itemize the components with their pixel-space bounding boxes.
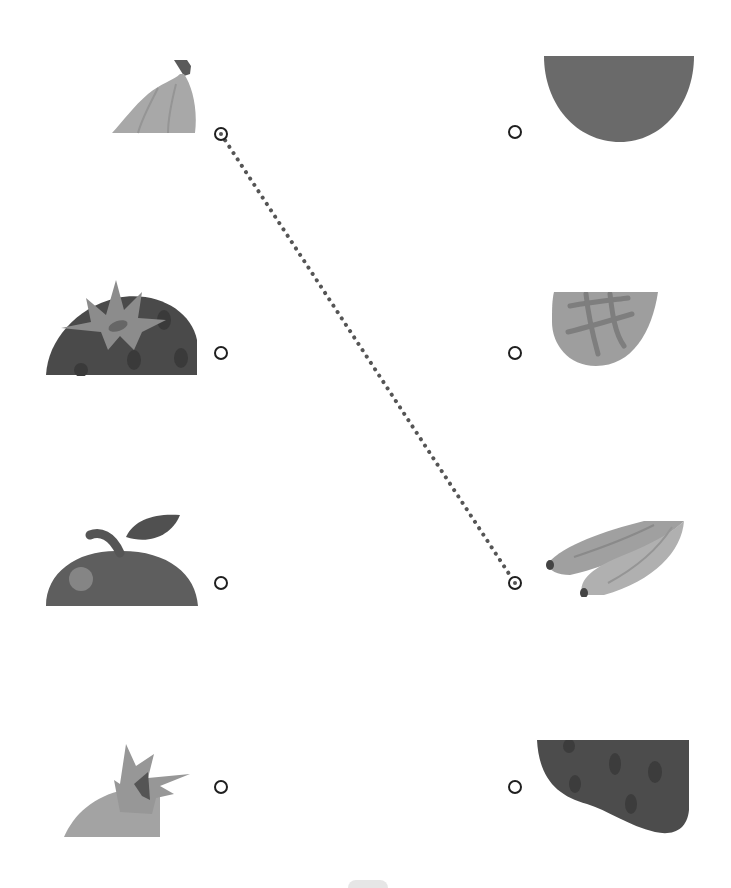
- strawberry-half-icon: [537, 740, 689, 836]
- strawberry-icon: [46, 280, 198, 376]
- match-dot-right-2[interactable]: [508, 346, 522, 360]
- match-dot-right-3[interactable]: [508, 576, 522, 590]
- banana-bottom-icon: [544, 521, 686, 597]
- fruit-banana-bottom[interactable]: banana bottom half: [544, 521, 686, 601]
- banana-icon: [112, 58, 197, 134]
- fruit-strawberry-right[interactable]: strawberry right half: [537, 740, 689, 840]
- match-dot-left-4[interactable]: [214, 780, 228, 794]
- fruit-watermelon-bottom[interactable]: watermelon bottom half: [544, 56, 696, 146]
- apple-icon: [46, 513, 198, 607]
- fruit-strawberry-left[interactable]: strawberry left half: [46, 280, 198, 380]
- match-dot-left-2[interactable]: [214, 346, 228, 360]
- fruit-mango-half[interactable]: mango half: [552, 292, 660, 372]
- match-dot-right-1[interactable]: [508, 125, 522, 139]
- bottom-sheet-handle[interactable]: [348, 880, 388, 888]
- mango-icon: [552, 292, 660, 368]
- fruit-apple-top[interactable]: apple top half: [46, 513, 198, 611]
- match-dot-left-1[interactable]: [214, 127, 228, 141]
- pineapple-icon: [64, 744, 192, 838]
- matching-game-board: banana top half strawberry left half app…: [0, 0, 731, 888]
- watermelon-icon: [544, 56, 696, 142]
- match-dot-right-4[interactable]: [508, 780, 522, 794]
- fruit-banana-top[interactable]: banana top half: [112, 58, 197, 138]
- fruit-pineapple-left[interactable]: pineapple left half: [64, 744, 192, 842]
- match-dot-left-3[interactable]: [214, 576, 228, 590]
- dotted-connection-line: [221, 134, 515, 583]
